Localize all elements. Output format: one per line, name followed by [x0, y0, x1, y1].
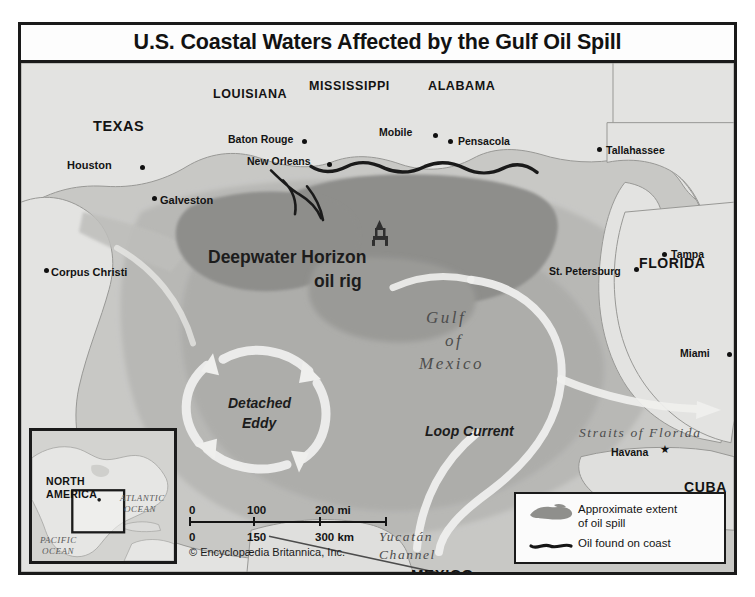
city-marker-st-petersburg [634, 267, 639, 272]
map-figure: U.S. Coastal Waters Affected by the Gulf… [0, 0, 755, 597]
map-frame: U.S. Coastal Waters Affected by the Gulf… [18, 22, 737, 575]
city-marker-tallahassee [597, 147, 602, 152]
scale-km-tick-0: 0 [189, 531, 195, 543]
legend-item-oil-extent: Approximate extent of oil spill [524, 503, 716, 530]
scale-km-tick-2: 300 km [315, 531, 354, 543]
inset-locator-box [72, 490, 124, 532]
city-marker-pensacola [448, 139, 453, 144]
city-marker-corpus-christi [44, 268, 49, 273]
scale-km-tick-1: 150 [247, 531, 266, 543]
scale-bar-line [189, 521, 387, 523]
inset-graphics [32, 431, 174, 561]
city-marker-miami [727, 352, 732, 357]
city-marker-galveston [152, 196, 157, 201]
capital-marker-havana: ★ [660, 445, 670, 453]
scale-miles-labels: 0 100 200 mi [189, 501, 414, 516]
city-marker-new-orleans [327, 162, 332, 167]
oil-on-coast-swatch [524, 537, 578, 557]
map-canvas: TEXASLOUISIANAMISSISSIPPIALABAMAFLORIDAM… [21, 63, 734, 572]
legend-text-oil-extent: Approximate extent of oil spill [578, 503, 677, 530]
scale-tick-start [189, 517, 191, 526]
scale-km-labels: 0 150 300 km [189, 527, 414, 543]
scale-tick-mid2 [319, 517, 321, 526]
inset-cuba-caribbean [124, 522, 160, 532]
inset-spill-dot [97, 498, 101, 502]
inset-locator-map: NORTH AMERICA ATLANTIC OCEAN PACIFIC OCE… [29, 428, 177, 564]
oil-spill-extent-swatch [524, 503, 578, 523]
map-scale-bar: 0 100 200 mi 0 150 300 km © Enc [189, 501, 414, 558]
legend-text-oil-coast: Oil found on coast [578, 537, 671, 551]
scale-tick-end [385, 517, 387, 526]
legend-oil-extent-line2: of oil spill [578, 517, 677, 531]
scale-miles-tick-2: 200 mi [315, 504, 351, 516]
scale-miles-tick-1: 100 [247, 504, 266, 516]
legend-item-oil-coast: Oil found on coast [524, 537, 716, 557]
legend-oil-coast-line1: Oil found on coast [578, 537, 671, 551]
map-legend: Approximate extent of oil spill Oil foun… [514, 492, 726, 564]
scale-tick-mid [253, 517, 255, 526]
copyright-credit: © Encyclopædia Britannica, Inc. [189, 546, 345, 558]
page-title: U.S. Coastal Waters Affected by the Gulf… [134, 30, 622, 55]
scale-miles-tick-0: 0 [189, 504, 195, 516]
city-marker-mobile [433, 133, 438, 138]
city-marker-tampa [662, 252, 667, 257]
scale-bar-graphic [189, 517, 414, 526]
legend-oil-extent-line1: Approximate extent [578, 503, 677, 517]
map-title-bar: U.S. Coastal Waters Affected by the Gulf… [21, 25, 734, 63]
city-marker-baton-rouge [302, 139, 307, 144]
city-marker-houston [140, 165, 145, 170]
